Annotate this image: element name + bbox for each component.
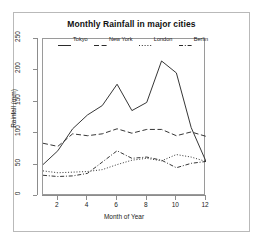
legend-swatch-dashed-icon [94,35,107,42]
y-axis-tick-label: 0 [2,190,32,200]
legend-item-tokyo: Tokyo [58,35,88,42]
chart-screenshot: Monthly Rainfall in major cities 0501001… [0,0,263,247]
x-axis-tick-label: 10 [165,201,185,208]
y-axis-line [37,38,38,195]
plot-panel [42,38,205,195]
legend-item-berlin: Berlin [179,35,208,42]
y-axis-tick [33,101,37,102]
series-line-london [43,155,206,173]
x-axis-tick [146,196,147,200]
series-line-new-york [43,129,206,147]
chart-title: Monthly Rainfall in major cities [0,19,263,29]
x-axis-title: Month of Year [42,213,206,220]
y-axis-tick-label: 50 [2,159,32,169]
plot-series-svg [43,39,206,196]
y-axis-tick [33,195,37,196]
legend-label: Berlin [194,36,208,42]
legend-swatch-dotted-icon [139,35,152,42]
x-axis-tick [205,196,206,200]
legend-swatch-dashdot-icon [179,35,192,42]
x-axis-tick-label: 4 [76,201,96,208]
x-axis-tick-label: 8 [136,201,156,208]
series-line-tokyo [43,61,206,165]
y-axis-tick [33,164,37,165]
y-axis-tick-label: 250 [2,33,32,43]
x-axis-tick-label: 6 [106,201,126,208]
y-axis-tick-label: 150 [2,96,32,106]
x-axis-tick [175,196,176,200]
y-axis-tick [33,38,37,39]
x-axis-tick [57,196,58,200]
x-axis-tick [116,196,117,200]
legend-swatch-solid-icon [58,35,71,42]
y-axis-title: Rainfall (mm) [10,74,17,144]
y-axis-tick-label: 200 [2,64,32,74]
legend-item-london: London [139,35,173,42]
x-axis-tick-label: 12 [195,201,215,208]
x-axis-tick [86,196,87,200]
legend-label: New York [109,36,133,42]
legend: TokyoNew YorkLondonBerlin [58,33,208,44]
legend-label: Tokyo [73,36,88,42]
y-axis-tick [33,132,37,133]
y-axis-tick [33,69,37,70]
legend-item-new-york: New York [94,35,133,42]
series-line-berlin [43,151,206,177]
y-axis-tick-label: 100 [2,127,32,137]
x-axis-tick-label: 2 [47,201,67,208]
legend-label: London [154,36,173,42]
